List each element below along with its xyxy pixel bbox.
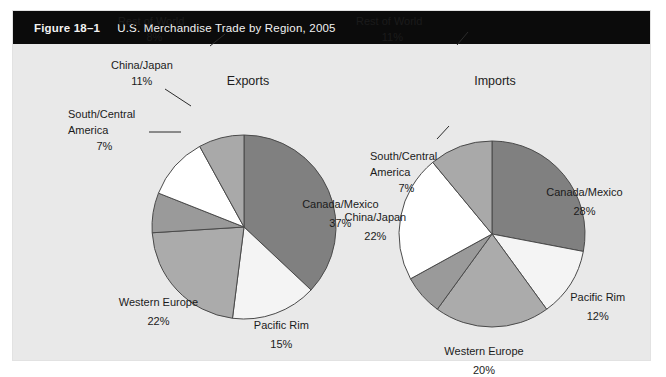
svg-text:Canada/Mexico: Canada/Mexico xyxy=(546,186,622,198)
svg-text:Rest of World: Rest of World xyxy=(118,15,184,27)
figure-header-bar: Figure 18–1 U.S. Merchandise Trade by Re… xyxy=(13,11,650,44)
svg-text:South/Central: South/Central xyxy=(370,150,437,162)
pie-slice-label: Western Europe20% xyxy=(444,345,523,376)
charts-area: Exports Imports Canada/Mexico37%Pacific … xyxy=(13,44,650,360)
svg-text:7%: 7% xyxy=(398,182,414,194)
svg-text:America: America xyxy=(370,166,411,178)
svg-text:8%: 8% xyxy=(146,31,162,43)
svg-text:22%: 22% xyxy=(364,230,386,242)
pie-slice-label: Pacific Rim12% xyxy=(570,291,625,322)
figure-panel: Figure 18–1 U.S. Merchandise Trade by Re… xyxy=(13,11,650,360)
svg-text:28%: 28% xyxy=(573,205,595,217)
imports-pie-chart: Canada/Mexico28%Pacific Rim12%Western Eu… xyxy=(13,44,650,360)
pie-slice-label: China/Japan22% xyxy=(344,211,406,242)
svg-text:China/Japan: China/Japan xyxy=(344,211,406,223)
svg-text:20%: 20% xyxy=(473,364,495,376)
svg-text:12%: 12% xyxy=(587,310,609,322)
svg-text:11%: 11% xyxy=(382,31,403,43)
svg-text:Pacific Rim: Pacific Rim xyxy=(570,291,625,303)
svg-text:Rest of World: Rest of World xyxy=(356,15,422,27)
svg-text:Western Europe: Western Europe xyxy=(444,345,523,357)
figure-number: Figure 18–1 xyxy=(34,22,100,34)
